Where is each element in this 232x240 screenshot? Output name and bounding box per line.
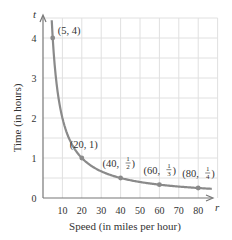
x-tick-label: 50 xyxy=(135,205,145,216)
point-label: (80, 14) xyxy=(182,165,215,181)
svg-text:4: 4 xyxy=(206,173,210,181)
svg-text:3: 3 xyxy=(167,170,171,178)
labeled-points: (5, 4)(20, 1)(40, 12)(60, 13)(80, 14) xyxy=(50,25,215,190)
y-tick-label: 1 xyxy=(32,153,37,164)
x-tick-label: 60 xyxy=(154,205,164,216)
x-tick-label: 20 xyxy=(77,205,87,216)
svg-text:(80,: (80, xyxy=(182,168,199,180)
x-tick-label: 40 xyxy=(116,205,126,216)
data-point xyxy=(79,156,84,161)
x-tick-label: 10 xyxy=(57,205,67,216)
y-tick-label: 0 xyxy=(32,193,37,204)
point-label: (40, 12) xyxy=(103,155,136,171)
svg-text:1: 1 xyxy=(167,162,171,170)
svg-text:(5, 4): (5, 4) xyxy=(58,25,81,37)
y-tick-label: 4 xyxy=(32,33,37,44)
point-label: (60, 13) xyxy=(143,162,176,178)
svg-text:1: 1 xyxy=(206,165,210,173)
data-point xyxy=(118,176,123,181)
point-label: (20, 1) xyxy=(70,139,98,151)
y-axis-label: Time (in hours) xyxy=(11,83,24,152)
reciprocal-curve-chart: (5, 4)(20, 1)(40, 12)(60, 13)(80, 14) 10… xyxy=(0,0,232,240)
x-axis-label: Speed (in miles per hour) xyxy=(69,220,181,233)
svg-text:(60,: (60, xyxy=(143,165,160,177)
tick-labels: 102030405060708001234 xyxy=(32,33,204,216)
y-tick-label: 2 xyxy=(32,113,37,124)
svg-text:): ) xyxy=(211,168,215,180)
x-tick-label: 30 xyxy=(96,205,106,216)
svg-text:(40,: (40, xyxy=(103,158,120,170)
svg-text:): ) xyxy=(172,165,176,177)
x-tick-label: 80 xyxy=(193,205,203,216)
data-point xyxy=(196,186,201,191)
svg-text:2: 2 xyxy=(126,163,130,171)
data-point xyxy=(157,182,162,187)
y-axis-variable: t xyxy=(33,8,37,20)
y-tick-label: 3 xyxy=(32,73,37,84)
x-tick-label: 70 xyxy=(174,205,184,216)
point-label: (5, 4) xyxy=(58,25,81,37)
svg-text:(20, 1): (20, 1) xyxy=(70,139,98,151)
svg-text:): ) xyxy=(132,158,136,170)
svg-text:1: 1 xyxy=(126,155,130,163)
x-axis-variable: r xyxy=(215,201,220,213)
data-point xyxy=(50,36,55,41)
